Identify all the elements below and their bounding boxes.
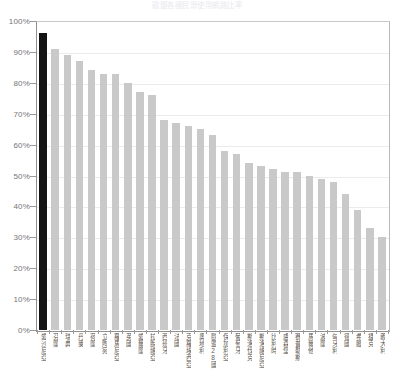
x-axis-category-label: 荷蘭 bbox=[88, 333, 95, 385]
bar bbox=[209, 135, 217, 330]
bar-slot bbox=[281, 21, 289, 330]
bar-slot bbox=[112, 21, 120, 330]
bar bbox=[76, 61, 84, 330]
bar bbox=[342, 194, 350, 330]
x-axis-category-label: 芬蘭 bbox=[52, 333, 59, 385]
bar-slot bbox=[197, 21, 205, 330]
bar bbox=[185, 126, 193, 330]
x-axis-category-label: 英國 bbox=[124, 333, 131, 385]
bar-slot bbox=[378, 21, 386, 330]
x-axis-category-label: 斯洛伐克 bbox=[245, 333, 252, 385]
bar bbox=[221, 151, 229, 330]
bar-slot bbox=[64, 21, 72, 330]
bar-slot bbox=[185, 21, 193, 330]
bar-slot bbox=[293, 21, 301, 330]
bar-series bbox=[37, 21, 388, 330]
x-axis-category-label: 奧地利 bbox=[197, 333, 204, 385]
bar-slot bbox=[124, 21, 132, 330]
y-axis-tick-label: 100% bbox=[9, 17, 30, 26]
bar bbox=[269, 169, 277, 330]
x-axis-category-label: 捷克 bbox=[366, 333, 373, 385]
x-axis-tick bbox=[388, 330, 389, 334]
bar-slot bbox=[269, 21, 277, 330]
x-axis-category-label: 羅馬尼亞 bbox=[112, 333, 119, 385]
bar bbox=[318, 179, 326, 330]
bar-slot bbox=[354, 21, 362, 330]
x-axis-category-label: 義大利 bbox=[378, 333, 385, 385]
bar-slot bbox=[257, 21, 265, 330]
x-axis-category-label: 斯洛維尼亞 bbox=[257, 333, 264, 385]
bar-slot bbox=[172, 21, 180, 330]
x-axis-category-label: 法國 bbox=[173, 333, 180, 385]
bar bbox=[281, 172, 289, 330]
x-axis-labels: 愛沙尼亞芬蘭瑞典丹麥荷蘭立陶宛羅馬尼亞英國愛爾蘭拉脫維亞西班牙法國克羅埃西亞奧地… bbox=[37, 333, 388, 386]
bar bbox=[306, 176, 314, 331]
bar-slot bbox=[100, 21, 108, 330]
bar bbox=[124, 83, 132, 330]
y-axis-tick-label: 70% bbox=[13, 109, 30, 118]
bar-slot bbox=[342, 21, 350, 330]
x-axis-category-label: 克羅埃西亞 bbox=[185, 333, 192, 385]
bar-slot bbox=[51, 21, 59, 330]
x-axis-category-label: 歐盟28國 bbox=[209, 333, 216, 385]
bar bbox=[293, 172, 301, 330]
bar bbox=[366, 228, 374, 330]
bar bbox=[148, 95, 156, 330]
bar bbox=[160, 120, 168, 330]
y-axis-tick-label: 90% bbox=[13, 47, 30, 56]
bar-slot bbox=[221, 21, 229, 330]
x-axis-category-label: 愛爾蘭 bbox=[136, 333, 143, 385]
bar-slot bbox=[76, 21, 84, 330]
chart-title: 歐盟各國民眾使用網路比率 bbox=[0, 0, 394, 12]
bar-slot bbox=[209, 21, 217, 330]
bar-slot bbox=[148, 21, 156, 330]
bar bbox=[378, 237, 386, 330]
bar-slot bbox=[136, 21, 144, 330]
bar bbox=[330, 182, 338, 330]
x-axis-category-label: 保加利亞 bbox=[221, 333, 228, 385]
y-axis-tick-label: 40% bbox=[13, 202, 30, 211]
x-axis-category-label: 德國 bbox=[342, 333, 349, 385]
x-axis-category-label: 瑞典 bbox=[64, 333, 71, 385]
x-axis-category-label: 匈牙利 bbox=[330, 333, 337, 385]
bar-slot bbox=[306, 21, 314, 330]
bar bbox=[233, 154, 241, 330]
bar bbox=[88, 70, 96, 330]
bar-slot bbox=[366, 21, 374, 330]
x-axis-category-label: 比利時 bbox=[269, 333, 276, 385]
bar bbox=[245, 163, 253, 330]
bar bbox=[112, 74, 120, 330]
x-axis-category-label: 波蘭 bbox=[318, 333, 325, 385]
bar bbox=[136, 92, 144, 330]
y-axis-tick-label: 50% bbox=[13, 171, 30, 180]
x-axis-category-label: 希臘 bbox=[354, 333, 361, 385]
y-axis-tick-label: 10% bbox=[13, 295, 30, 304]
bar-chart: 歐盟各國民眾使用網路比率 0%10%20%30%40%50%60%70%80%9… bbox=[0, 0, 394, 386]
x-axis-category-label: 葡萄牙 bbox=[233, 333, 240, 385]
y-axis-tick-label: 80% bbox=[13, 78, 30, 87]
bar bbox=[257, 166, 265, 330]
bar bbox=[197, 129, 205, 330]
x-axis-category-label: 賽普勒斯 bbox=[294, 333, 301, 385]
bar-highlighted bbox=[39, 33, 47, 330]
x-axis-category-label: 愛沙尼亞 bbox=[39, 333, 46, 385]
y-axis-tick-label: 30% bbox=[13, 233, 30, 242]
bar bbox=[64, 55, 72, 330]
bar-slot bbox=[233, 21, 241, 330]
x-axis-category-label: 馬爾他 bbox=[306, 333, 313, 385]
bar bbox=[354, 210, 362, 331]
bar-slot bbox=[39, 21, 47, 330]
bar bbox=[100, 74, 108, 330]
bar bbox=[172, 123, 180, 330]
bar-slot bbox=[160, 21, 168, 330]
bar-slot bbox=[330, 21, 338, 330]
x-axis-category-label: 拉脫維亞 bbox=[148, 333, 155, 385]
x-axis-category-label: 丹麥 bbox=[76, 333, 83, 385]
y-axis-tick-label: 20% bbox=[13, 264, 30, 273]
bar-slot bbox=[245, 21, 253, 330]
x-axis-category-label: 立陶宛 bbox=[100, 333, 107, 385]
bar-slot bbox=[88, 21, 96, 330]
y-axis-tick-label: 0% bbox=[18, 326, 30, 335]
y-axis-tick-label: 60% bbox=[13, 140, 30, 149]
bar-slot bbox=[318, 21, 326, 330]
